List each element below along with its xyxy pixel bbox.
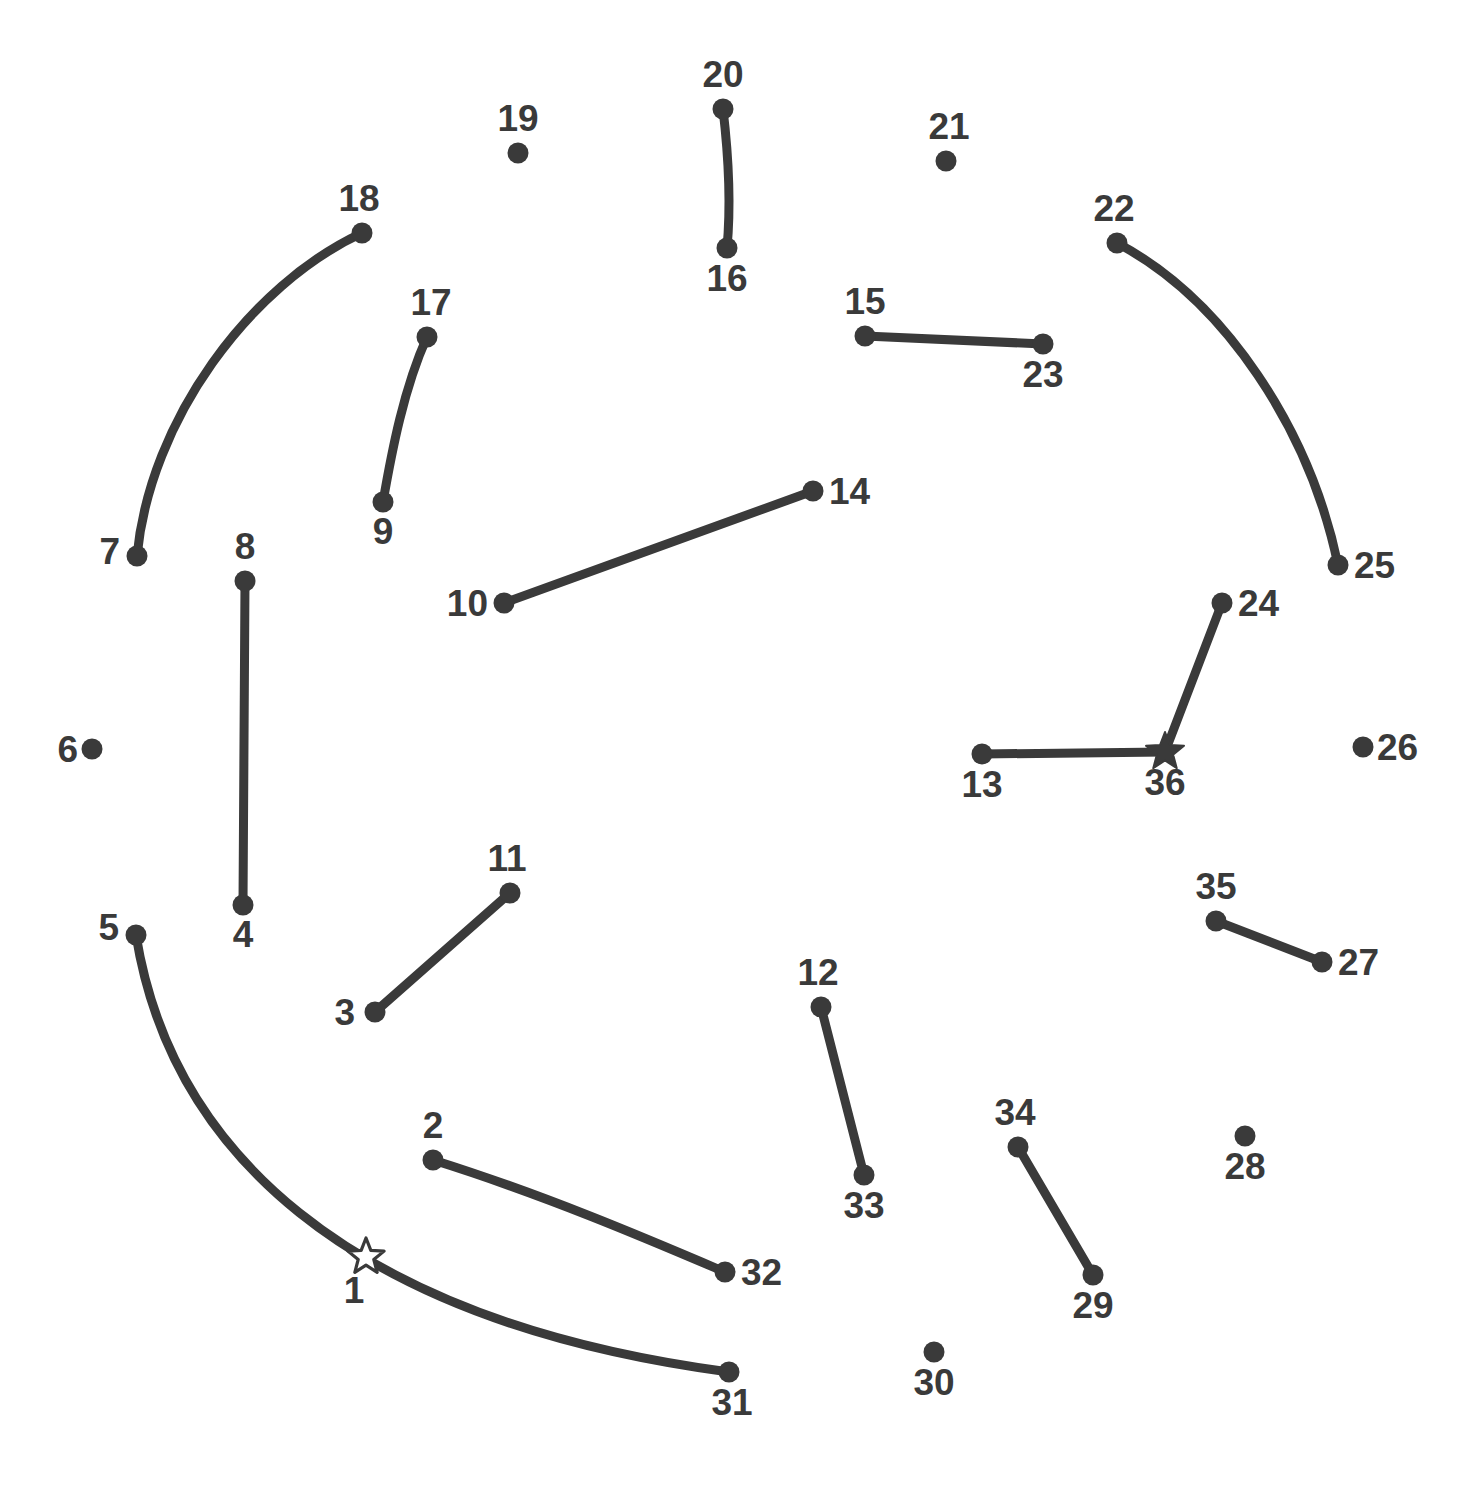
dot-marker[interactable] <box>1008 1137 1029 1158</box>
canvas-background <box>0 0 1472 1501</box>
dot-marker[interactable] <box>365 1002 386 1023</box>
dot-number-label: 24 <box>1238 583 1280 624</box>
dot-number-label: 11 <box>487 838 526 879</box>
dot-marker[interactable] <box>855 326 876 347</box>
dot-marker[interactable] <box>713 99 734 120</box>
dot-number-label: 21 <box>928 106 969 147</box>
dot-number-label: 10 <box>447 583 488 624</box>
dot-marker[interactable] <box>717 238 738 259</box>
dot-number-label: 23 <box>1022 354 1063 395</box>
dot-number-label: 17 <box>410 282 451 323</box>
dot-number-label: 19 <box>497 98 538 139</box>
dot-number-label: 13 <box>961 764 1002 805</box>
dot-marker[interactable] <box>1033 334 1054 355</box>
dot-number-label: 27 <box>1338 942 1379 983</box>
dot-number-label: 29 <box>1072 1285 1113 1326</box>
dot-marker[interactable] <box>854 1165 875 1186</box>
dot-number-label: 16 <box>706 258 747 299</box>
dot-marker[interactable] <box>423 1150 444 1171</box>
dot-marker[interactable] <box>1328 555 1349 576</box>
dot-number-label: 20 <box>702 54 743 95</box>
dot-number-label: 2 <box>423 1105 444 1146</box>
dot-marker[interactable] <box>1206 911 1227 932</box>
dot-marker[interactable] <box>719 1362 740 1383</box>
puzzle-canvas: 1234567891011121314151617181920212223242… <box>0 0 1472 1501</box>
dot-marker[interactable] <box>508 143 529 164</box>
connect-the-dots-drawing: 1234567891011121314151617181920212223242… <box>0 0 1472 1501</box>
dot-marker[interactable] <box>417 327 438 348</box>
dot-marker[interactable] <box>1107 233 1128 254</box>
dot-marker[interactable] <box>127 546 148 567</box>
dot-number-label: 26 <box>1377 727 1418 768</box>
dot-number-label: 7 <box>99 531 120 572</box>
dot-marker[interactable] <box>126 925 147 946</box>
dot-marker[interactable] <box>803 481 824 502</box>
dot-marker[interactable] <box>972 744 993 765</box>
dot-number-label: 4 <box>233 914 254 955</box>
dot-marker[interactable] <box>233 895 254 916</box>
dot-marker[interactable] <box>1235 1126 1256 1147</box>
dot-marker[interactable] <box>1312 952 1333 973</box>
dot-number-label: 1 <box>344 1270 365 1311</box>
dot-marker[interactable] <box>715 1262 736 1283</box>
dot-number-label: 28 <box>1224 1146 1265 1187</box>
dot-number-label: 18 <box>338 178 379 219</box>
dot-number-label: 25 <box>1354 545 1395 586</box>
dot-number-label: 12 <box>797 952 838 993</box>
dot-number-label: 9 <box>373 511 394 552</box>
dot-marker[interactable] <box>1212 593 1233 614</box>
dot-number-label: 15 <box>844 281 885 322</box>
dot-number-label: 32 <box>741 1252 782 1293</box>
dot-marker[interactable] <box>1353 737 1374 758</box>
dot-number-label: 8 <box>235 526 256 567</box>
dot-marker[interactable] <box>494 593 515 614</box>
dot-number-label: 36 <box>1144 762 1185 803</box>
dot-marker[interactable] <box>500 883 521 904</box>
dot-marker[interactable] <box>936 151 957 172</box>
dot-marker[interactable] <box>82 739 103 760</box>
dot-number-label: 3 <box>334 992 355 1033</box>
dot-marker[interactable] <box>811 997 832 1018</box>
dot-marker[interactable] <box>1083 1265 1104 1286</box>
dot-marker[interactable] <box>352 223 373 244</box>
dot-number-label: 31 <box>711 1382 752 1423</box>
dot-number-label: 5 <box>98 907 119 948</box>
dot-marker[interactable] <box>373 492 394 513</box>
dot-number-label: 33 <box>843 1185 884 1226</box>
dot-number-label: 30 <box>913 1362 954 1403</box>
dot-marker[interactable] <box>924 1342 945 1363</box>
dot-number-label: 35 <box>1195 866 1236 907</box>
dot-number-label: 14 <box>829 471 871 512</box>
connector-segment <box>243 581 245 905</box>
dot-number-label: 34 <box>994 1092 1036 1133</box>
dot-number-label: 22 <box>1093 188 1134 229</box>
dot-number-label: 6 <box>57 729 78 770</box>
dot-marker[interactable] <box>235 571 256 592</box>
connector-segment <box>982 752 1165 754</box>
